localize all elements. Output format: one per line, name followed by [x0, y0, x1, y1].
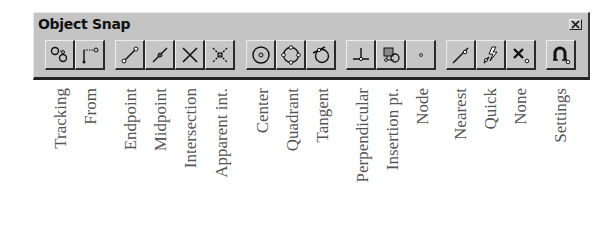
- perpendicular-icon: [350, 44, 372, 66]
- close-icon: [571, 20, 581, 29]
- label-node: Node: [413, 88, 433, 125]
- label-tangent: Tangent: [313, 88, 333, 143]
- label-from: From: [81, 88, 101, 125]
- label-midpoint: Midpoint: [151, 88, 171, 151]
- quick-icon: [480, 44, 502, 66]
- tracking-icon: [49, 44, 71, 66]
- nearest-icon: [450, 44, 472, 66]
- label-quick: Quick: [481, 88, 501, 130]
- apparent-intersection-button[interactable]: [205, 40, 235, 70]
- label-apparent-int: Apparent int.: [212, 88, 232, 178]
- center-button[interactable]: [246, 40, 276, 70]
- insertion-button[interactable]: [376, 40, 406, 70]
- close-button[interactable]: [569, 19, 582, 30]
- perpendicular-button[interactable]: [346, 40, 376, 70]
- intersection-button[interactable]: [175, 40, 205, 70]
- node-icon: [410, 44, 432, 66]
- center-icon: [250, 44, 272, 66]
- endpoint-icon: [119, 44, 141, 66]
- settings-magnet-icon: [550, 44, 572, 66]
- insertion-icon: [380, 44, 402, 66]
- settings-button[interactable]: [546, 40, 576, 70]
- label-endpoint: Endpoint: [121, 88, 141, 150]
- toolbar-title-bar[interactable]: Object Snap: [34, 13, 588, 37]
- label-center: Center: [253, 88, 273, 133]
- label-insertion-pt: Insertion pt.: [383, 88, 403, 170]
- label-quadrant: Quadrant: [283, 88, 303, 151]
- midpoint-button[interactable]: [145, 40, 175, 70]
- label-none: None: [511, 88, 531, 125]
- from-icon: [79, 44, 101, 66]
- label-perpendicular: Perpendicular: [353, 88, 373, 182]
- midpoint-icon: [149, 44, 171, 66]
- nearest-button[interactable]: [446, 40, 476, 70]
- from-button[interactable]: [75, 40, 105, 70]
- endpoint-button[interactable]: [115, 40, 145, 70]
- toolbar-title: Object Snap: [38, 16, 130, 32]
- label-intersection: Intersection: [181, 88, 201, 168]
- label-settings: Settings: [551, 88, 571, 143]
- node-button[interactable]: [406, 40, 436, 70]
- none-button[interactable]: [506, 40, 536, 70]
- quadrant-button[interactable]: [276, 40, 306, 70]
- label-tracking: Tracking: [51, 88, 71, 149]
- tracking-button[interactable]: [45, 40, 75, 70]
- label-nearest: Nearest: [451, 88, 471, 140]
- none-icon: [510, 44, 532, 66]
- object-snap-toolbar: Object Snap: [33, 12, 590, 80]
- intersection-icon: [179, 44, 201, 66]
- tangent-icon: [310, 44, 332, 66]
- quadrant-icon: [280, 44, 302, 66]
- tangent-button[interactable]: [306, 40, 336, 70]
- apparent-intersection-icon: [209, 44, 231, 66]
- quick-button[interactable]: [476, 40, 506, 70]
